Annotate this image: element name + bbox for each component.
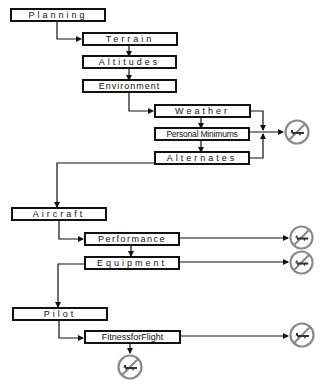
node-fitness-for-flight: FitnessforFlight bbox=[84, 330, 181, 344]
node-personal-minimums: Personal Minimums bbox=[154, 127, 250, 141]
go-nogo-flowchart: Planning Terrain Altitudes Environment W… bbox=[0, 0, 320, 391]
node-equipment: Equipment bbox=[84, 256, 180, 270]
no-flight-icon bbox=[289, 225, 314, 250]
node-weather: Weather bbox=[154, 104, 251, 118]
no-flight-icon bbox=[284, 119, 310, 145]
no-flight-icon bbox=[117, 354, 143, 380]
node-alternates: Alternates bbox=[154, 151, 250, 165]
node-pilot: Pilot bbox=[12, 307, 108, 321]
no-flight-icon bbox=[289, 250, 314, 275]
node-performance: Performance bbox=[84, 232, 180, 246]
node-environment: Environment bbox=[82, 79, 177, 93]
node-planning: Planning bbox=[10, 8, 106, 22]
node-aircraft: Aircraft bbox=[11, 207, 107, 221]
node-altitudes: Altitudes bbox=[82, 55, 177, 69]
node-terrain: Terrain bbox=[82, 32, 178, 46]
no-flight-icon bbox=[289, 322, 315, 348]
